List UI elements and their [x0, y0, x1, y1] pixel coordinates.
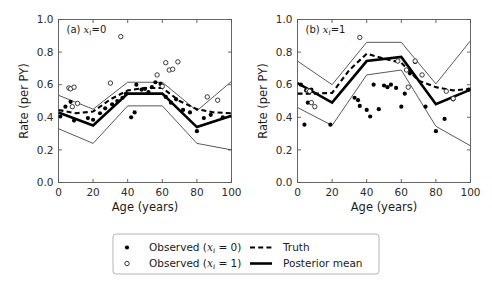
observed-point-x0: [115, 99, 119, 103]
observed-point-x1: [406, 85, 410, 89]
observed-point-x0: [399, 105, 403, 109]
observed-point-x0: [202, 116, 206, 120]
observed-point-x0: [408, 71, 412, 75]
y-tick-label: 0.8: [276, 46, 293, 58]
y-tick-label: 0.6: [37, 78, 54, 90]
observed-point-x0: [181, 108, 185, 112]
observed-point-x0: [403, 92, 407, 96]
observed-point-x1: [451, 96, 455, 100]
observed-point-x0: [164, 95, 168, 99]
observed-point-x0: [299, 83, 303, 87]
x-tick-label: 60: [395, 186, 408, 198]
x-axis-label: Age (years): [351, 200, 418, 214]
panel-label-prefix: (a): [67, 24, 84, 35]
observed-point-x1: [108, 81, 112, 85]
observed-point-x1: [404, 68, 408, 72]
observed-point-x0: [98, 111, 102, 115]
x-tick-label: 40: [121, 186, 134, 198]
observed-point-x0: [174, 97, 178, 101]
observed-point-x1: [358, 35, 362, 39]
axis-spine-top-right: [59, 20, 232, 183]
observed-point-x0: [385, 85, 389, 89]
panel-label-a: (a) xi=0: [67, 24, 107, 37]
observed-point-x0: [72, 118, 76, 122]
x-tick-label: 60: [156, 186, 169, 198]
legend: Observed (xi = 0)Observed (xi = 1)TruthP…: [113, 234, 379, 274]
observed-point-x0: [146, 90, 150, 94]
observed-point-x0: [69, 100, 73, 104]
observed-point-x0: [58, 114, 62, 118]
observed-point-x0: [389, 83, 393, 87]
observed-point-x1: [160, 84, 164, 88]
legend-entry-1[interactable]: [125, 261, 129, 265]
x-tick-label: 100: [221, 186, 241, 198]
y-tick-label: 1.0: [37, 13, 54, 25]
observed-point-x1: [396, 59, 400, 63]
legend-marker-filled-circle-icon: [125, 245, 129, 249]
observed-point-x0: [103, 106, 107, 110]
observed-point-x0: [110, 102, 114, 106]
legend-label-text: Observed (: [149, 257, 207, 269]
panel-data-b: [298, 35, 471, 146]
y-tick-label: 0.4: [37, 111, 54, 123]
observed-point-x0: [368, 114, 372, 118]
observed-point-x1: [420, 73, 424, 77]
observed-point-x0: [143, 87, 147, 91]
observed-point-x1: [215, 98, 219, 102]
legend-entry-0[interactable]: [125, 245, 129, 249]
observed-point-x1: [119, 34, 123, 38]
observed-point-x0: [195, 129, 199, 133]
observed-point-x0: [188, 110, 192, 114]
observed-point-x1: [444, 89, 448, 93]
legend-marker-open-circle-icon: [125, 261, 129, 265]
panel-data-a: [58, 34, 231, 149]
legend-label-3: Posterior mean: [283, 257, 363, 269]
observed-point-x0: [86, 116, 90, 120]
y-tick-label: 0.8: [37, 46, 54, 58]
observed-point-x0: [372, 83, 376, 87]
observed-point-x0: [153, 80, 157, 84]
panel-b: 0.00.20.40.60.81.0020406080100Age (years…: [256, 13, 481, 213]
observed-point-x0: [134, 83, 138, 87]
observed-point-x0: [150, 85, 154, 89]
x-tick-label: 100: [460, 186, 480, 198]
observed-point-x0: [63, 105, 67, 109]
observed-point-x0: [91, 118, 95, 122]
observed-point-x1: [164, 61, 168, 65]
observed-point-x1: [75, 101, 79, 105]
observed-point-x1: [313, 105, 317, 109]
observed-point-x1: [309, 100, 313, 104]
observed-point-x0: [434, 129, 438, 133]
observed-point-x0: [394, 86, 398, 90]
credible-bound-line: [298, 70, 471, 146]
panel-label-equation: =0: [92, 24, 107, 35]
figure-container: 0.00.20.40.60.81.0020406080100Age (years…: [0, 0, 492, 286]
posterior-mean-line: [298, 57, 471, 104]
x-tick-label: 20: [86, 186, 99, 198]
x-tick-label: 80: [190, 186, 203, 198]
observed-point-x0: [467, 87, 471, 91]
observed-point-x1: [70, 105, 74, 109]
y-tick-label: 0.2: [276, 144, 293, 156]
observed-point-x1: [176, 60, 180, 64]
x-axis-label: Age (years): [112, 200, 179, 214]
observed-point-x0: [120, 96, 124, 100]
observed-point-x0: [221, 115, 225, 119]
legend-label-text: Observed (: [149, 241, 207, 253]
observed-point-x0: [129, 115, 133, 119]
axis-spine-left-bottom: [59, 20, 232, 183]
legend-label-suffix: = 0): [215, 241, 241, 253]
y-tick-label: 0.0: [276, 176, 293, 188]
x-tick-label: 20: [325, 186, 338, 198]
credible-bound-line: [298, 41, 471, 85]
observed-point-x0: [124, 92, 128, 96]
x-tick-label: 80: [429, 186, 442, 198]
truth-line: [59, 88, 232, 113]
x-tick-label: 40: [360, 186, 373, 198]
observed-point-x0: [169, 101, 173, 105]
legend-label-suffix: = 1): [215, 257, 241, 269]
panel-label-equation: =1: [331, 24, 346, 35]
observed-point-x1: [170, 67, 174, 71]
y-tick-label: 0.4: [276, 111, 293, 123]
observed-point-x1: [307, 89, 311, 93]
